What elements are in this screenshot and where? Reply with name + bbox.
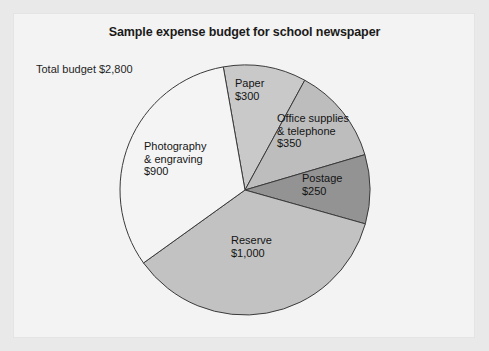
pie-chart (0, 0, 489, 351)
figure-root: Sample expense budget for school newspap… (0, 0, 489, 351)
slice-label-paper: Paper $300 (235, 77, 264, 102)
slice-label-photography: Photography & engraving $900 (144, 140, 206, 178)
slice-label-postage: Postage $250 (302, 172, 342, 197)
slice-label-reserve: Reserve $1,000 (231, 234, 272, 259)
slice-label-office-supplies: Office supplies & telephone $350 (277, 112, 349, 150)
